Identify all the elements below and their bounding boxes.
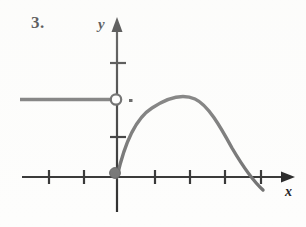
filled-dot-origin — [110, 168, 121, 179]
x-axis-label: x — [285, 185, 292, 199]
stray-mark — [129, 99, 133, 102]
y-axis-arrowhead — [112, 17, 123, 32]
y-axis-label: y — [98, 17, 105, 32]
x-axis-arrowhead — [281, 172, 295, 183]
figure-screenshot: 3. — [0, 0, 306, 227]
constant-branch-ray — [20, 94, 121, 104]
open-circle-endpoint — [111, 94, 121, 104]
graph-canvas — [0, 0, 306, 227]
